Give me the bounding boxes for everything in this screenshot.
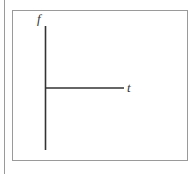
plot: f t xyxy=(0,0,195,174)
y-axis-label: f xyxy=(37,11,43,26)
x-axis-label: t xyxy=(127,80,131,95)
